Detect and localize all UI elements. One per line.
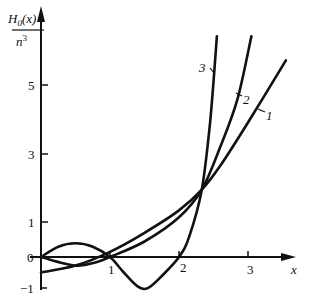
y-tick-label: −1 <box>20 281 34 296</box>
x-tick-label: 3 <box>247 262 254 277</box>
y-axis-arrow-icon <box>37 6 45 22</box>
svg-text:H0(x): H0(x) <box>7 11 36 28</box>
y-tick-label: 5 <box>28 78 35 93</box>
y-ticks: 5 3 1 0 −1 <box>20 78 48 296</box>
y-tick-label: 1 <box>28 215 35 230</box>
curve-labels: 3 2 1 <box>198 60 273 123</box>
x-ticks: 1 2 3 x <box>108 251 297 277</box>
curve-label-2: 2 <box>243 92 250 107</box>
x-axis-arrow-icon <box>281 253 296 261</box>
curve-3 <box>41 36 217 289</box>
x-axis-label: x <box>290 262 297 277</box>
y-tick-label: 3 <box>28 147 35 162</box>
svg-text:n3: n3 <box>16 33 28 49</box>
curve-label-3: 3 <box>198 60 206 75</box>
chart-canvas: H0(x) n3 5 3 1 0 −1 1 2 3 x 3 2 1 <box>0 0 317 306</box>
x-tick-label: 1 <box>108 262 115 277</box>
x-tick-label: 2 <box>180 260 187 275</box>
curve-label-1: 1 <box>266 108 273 123</box>
y-tick-label: 0 <box>27 250 34 265</box>
